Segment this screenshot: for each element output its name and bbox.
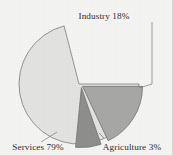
agriculture-label: Agriculture 3% (103, 142, 162, 152)
pie-chart-figure: Industry 18% Services 79% Agriculture 3% (0, 0, 173, 156)
pie-chart-canvas: Industry 18% Services 79% Agriculture 3% (0, 0, 173, 156)
services-label: Services 79% (12, 142, 64, 152)
industry-leader-line (139, 22, 152, 88)
industry-label: Industry 18% (79, 11, 130, 21)
